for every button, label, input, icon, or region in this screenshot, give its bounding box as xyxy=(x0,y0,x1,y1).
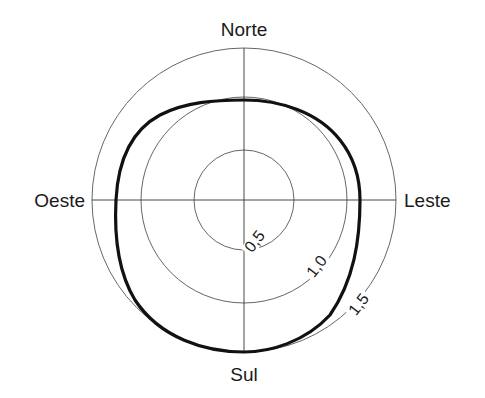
ring-label-group-1-5: 1,5 xyxy=(343,288,374,321)
label-west: Oeste xyxy=(34,190,85,211)
ring-label-group-1-0: 1,0 xyxy=(301,250,332,283)
polar-curve xyxy=(116,100,360,352)
polar-diagram: Norte Leste Sul Oeste 0,5 1,0 1,5 xyxy=(0,0,485,398)
label-north: Norte xyxy=(221,19,267,40)
label-south: Sul xyxy=(230,364,257,385)
label-east: Leste xyxy=(404,190,450,211)
